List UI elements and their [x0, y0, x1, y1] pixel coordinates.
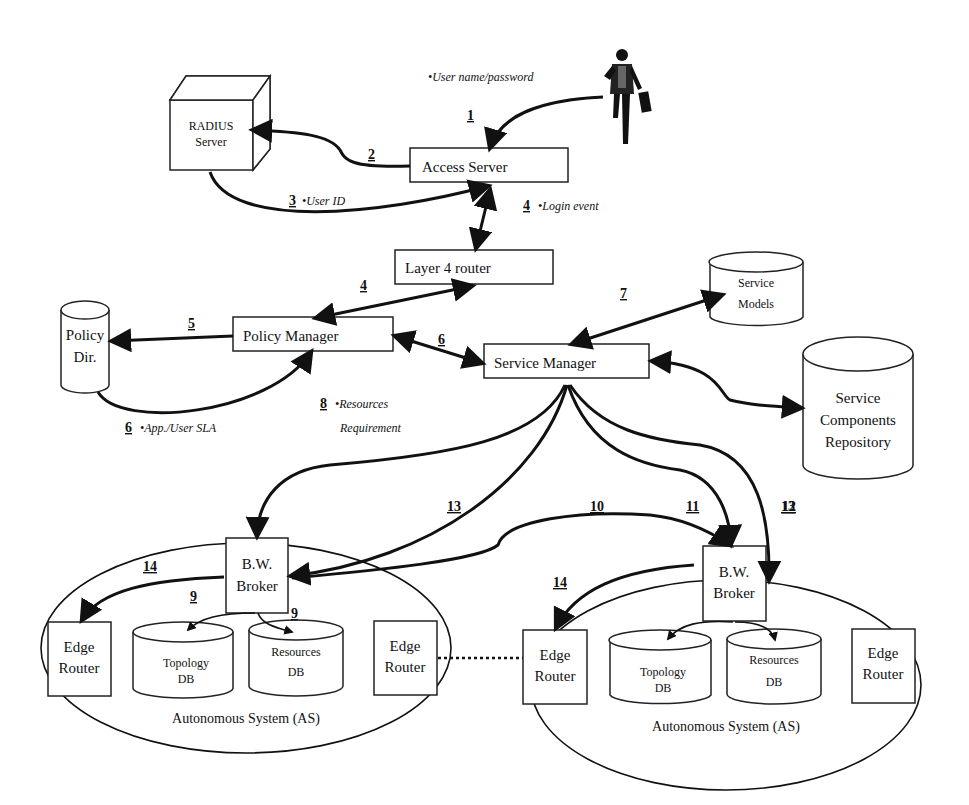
- edge-router-label-2: Router: [535, 668, 576, 684]
- service-models-node: Service Models: [709, 252, 803, 326]
- step-9-topology: 9: [190, 589, 197, 604]
- topology-db-label: Topology: [163, 656, 209, 670]
- resources-db-label: Resources: [749, 653, 799, 667]
- annotation-login-event: •Login event: [538, 199, 599, 213]
- step-13-right: 13: [781, 499, 795, 514]
- bw-broker-label-2: Broker: [236, 578, 278, 594]
- annotation-resources: •Resources: [335, 397, 388, 411]
- layer4-router-node: Layer 4 router: [395, 250, 553, 284]
- as-label: Autonomous System (AS): [652, 719, 800, 735]
- policy-dir-node: Policy Dir.: [61, 301, 109, 393]
- step-8: 8: [320, 396, 327, 411]
- step-3: 3: [289, 193, 296, 208]
- edge-router-label: Edge: [390, 638, 421, 654]
- autonomous-system-right: Edge Router Edge Router B.W. Broker Topo…: [523, 546, 921, 790]
- service-components-label-3: Repository: [825, 434, 891, 450]
- resources-db-label: Resources: [271, 645, 321, 659]
- service-components-node: Service Components Repository: [803, 337, 913, 479]
- annotation-app-sla: •App./User SLA: [140, 421, 217, 435]
- edge-router-label-2: Router: [863, 666, 904, 682]
- edge-router-label: Edge: [868, 645, 899, 661]
- policy-manager-label: Policy Manager: [243, 328, 338, 344]
- bw-broker-label: B.W.: [242, 556, 272, 572]
- service-models-label-2: Models: [738, 297, 774, 311]
- annotation-user-password: •User name/password: [428, 70, 534, 84]
- policy-dir-label: Policy: [66, 327, 105, 343]
- layer4-router-label: Layer 4 router: [405, 260, 491, 276]
- policy-manager-node: Policy Manager: [233, 317, 393, 351]
- step-9-resources: 9: [291, 606, 298, 621]
- annotation-requirement: Requirement: [339, 421, 402, 435]
- edge-router-label: Edge: [64, 639, 95, 655]
- radius-label: RADIUS: [189, 119, 234, 133]
- edge-router-label-2: Router: [385, 659, 426, 675]
- step-4-login: 4: [523, 198, 530, 213]
- access-server-label: Access Server: [422, 159, 507, 175]
- step-13-left: 13: [447, 499, 461, 514]
- step-14-right: 14: [553, 575, 567, 590]
- service-manager-node: Service Manager: [484, 344, 649, 378]
- resources-db-label-2: DB: [288, 665, 305, 679]
- edge-router-label: Edge: [540, 647, 571, 663]
- service-models-label: Service: [738, 276, 774, 290]
- radius-server-node: RADIUS Server: [170, 76, 270, 170]
- annotation-user-id: •User ID: [302, 194, 346, 208]
- step-11: 11: [686, 499, 699, 514]
- bw-broker-label-2: Broker: [713, 585, 755, 601]
- step-2: 2: [368, 147, 375, 162]
- step-1: 1: [467, 108, 474, 123]
- step-4: 4: [360, 278, 367, 293]
- step-6-sla: 6: [125, 420, 132, 435]
- service-manager-label: Service Manager: [494, 355, 596, 371]
- autonomous-system-left: Edge Router Edge Router B.W. Broker Topo…: [41, 538, 451, 753]
- topology-db-label: Topology: [640, 665, 686, 679]
- step-7: 7: [620, 286, 627, 301]
- topology-db-label-2: DB: [655, 681, 672, 695]
- as-label: Autonomous System (AS): [172, 711, 320, 727]
- bw-broker-label: B.W.: [719, 564, 749, 580]
- policy-dir-label-2: Dir.: [74, 349, 97, 365]
- step-6: 6: [438, 332, 445, 347]
- radius-label-2: Server: [195, 135, 226, 149]
- edge-router-label-2: Router: [59, 660, 100, 676]
- step-14-left: 14: [143, 559, 157, 574]
- resources-db-label-2: DB: [766, 675, 783, 689]
- step-5: 5: [188, 316, 195, 331]
- service-components-label-2: Components: [820, 412, 896, 428]
- network-diagram: RADIUS Server Access Server Layer 4 rout…: [0, 0, 969, 805]
- service-components-label: Service: [836, 390, 881, 406]
- topology-db-label-2: DB: [178, 672, 195, 686]
- access-server-node: Access Server: [410, 148, 568, 182]
- user-icon: [604, 49, 652, 144]
- step-10: 10: [590, 499, 604, 514]
